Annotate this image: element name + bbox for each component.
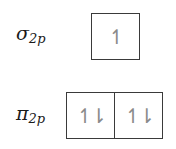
sigma-2p-label: σ2p: [16, 24, 46, 43]
pi-subscript: 2p: [29, 111, 46, 126]
pi-2p-label: π2p: [16, 104, 45, 123]
spin-up-arrow-icon: ↿: [109, 25, 123, 49]
spin-pair-arrows-icon: ↿⇂: [125, 104, 153, 128]
sigma-subscript: 2p: [29, 31, 46, 46]
sigma-symbol: σ: [16, 22, 29, 44]
spin-pair-arrows-icon: ↿⇂: [77, 104, 105, 128]
sigma-2p-orbital-box: ↿: [91, 13, 140, 60]
pi-symbol: π: [16, 102, 29, 124]
orbital-cell: ↿⇂: [67, 93, 114, 138]
orbital-cell: ↿⇂: [114, 93, 162, 138]
orbital-cell: ↿: [92, 14, 139, 59]
pi-2p-orbital-box: ↿⇂ ↿⇂: [66, 92, 163, 139]
